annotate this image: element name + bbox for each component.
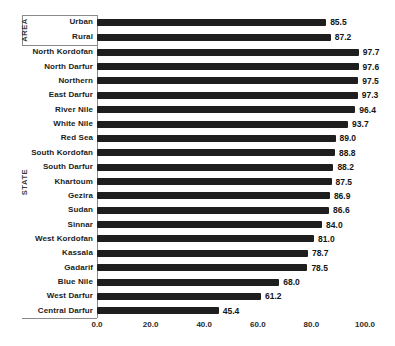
axis-top-separator-line bbox=[22, 15, 97, 16]
value-label: 86.9 bbox=[334, 191, 351, 201]
category-label: White Nile bbox=[20, 119, 93, 129]
bar-chart: AREAUrban85.5Rural87.2STATENorth Kordofa… bbox=[0, 0, 395, 346]
category-label: Rural bbox=[20, 32, 93, 42]
value-label: 84.0 bbox=[326, 220, 343, 230]
bar bbox=[97, 49, 359, 56]
category-label: Kassala bbox=[20, 248, 93, 258]
bar bbox=[97, 63, 359, 70]
bar bbox=[97, 135, 336, 142]
value-label: 88.8 bbox=[339, 148, 356, 158]
category-label: Gadarif bbox=[20, 263, 93, 273]
bar bbox=[97, 235, 314, 242]
bar bbox=[97, 106, 355, 113]
axis-group-separator-line bbox=[22, 45, 97, 46]
bar bbox=[97, 207, 329, 214]
value-label: 81.0 bbox=[318, 234, 335, 244]
axis-bottom-separator-line bbox=[22, 318, 97, 319]
bar bbox=[97, 121, 348, 128]
bar bbox=[97, 164, 333, 171]
value-label: 97.6 bbox=[363, 62, 380, 72]
category-label: Urban bbox=[20, 17, 93, 27]
x-tick-label: 80.0 bbox=[304, 320, 320, 329]
value-label: 78.7 bbox=[312, 248, 329, 258]
category-label: North Kordofan bbox=[20, 47, 93, 57]
bar bbox=[97, 264, 307, 271]
bar bbox=[97, 221, 322, 228]
category-label: Northern bbox=[20, 76, 93, 86]
x-tick-label: 100.0 bbox=[355, 320, 375, 329]
category-label: Red Sea bbox=[20, 133, 93, 143]
category-label: South Kordofan bbox=[20, 148, 93, 158]
value-label: 45.4 bbox=[223, 306, 240, 316]
bar bbox=[97, 178, 332, 185]
category-label: South Darfur bbox=[20, 162, 93, 172]
value-label: 87.2 bbox=[335, 32, 352, 42]
bar bbox=[97, 34, 331, 41]
bar bbox=[97, 293, 261, 300]
x-tick-label: 20.0 bbox=[143, 320, 159, 329]
category-label: Blue Nile bbox=[20, 277, 93, 287]
bar bbox=[97, 307, 219, 314]
value-label: 93.7 bbox=[352, 119, 369, 129]
category-label: North Darfur bbox=[20, 62, 93, 72]
value-label: 97.3 bbox=[362, 90, 379, 100]
value-label: 97.7 bbox=[363, 47, 380, 57]
bar bbox=[97, 92, 358, 99]
value-label: 96.4 bbox=[359, 105, 376, 115]
category-label: East Darfur bbox=[20, 90, 93, 100]
value-label: 88.2 bbox=[337, 162, 354, 172]
bar bbox=[97, 19, 326, 26]
value-label: 89.0 bbox=[340, 133, 357, 143]
value-label: 85.5 bbox=[330, 17, 347, 27]
category-label: West Darfur bbox=[20, 291, 93, 301]
category-label: Sudan bbox=[20, 205, 93, 215]
x-tick-label: 60.0 bbox=[250, 320, 266, 329]
value-label: 68.0 bbox=[283, 277, 300, 287]
category-label: Gezira bbox=[20, 191, 93, 201]
value-label: 61.2 bbox=[265, 291, 282, 301]
category-label: West Kordofan bbox=[20, 234, 93, 244]
x-tick-label: 40.0 bbox=[196, 320, 212, 329]
category-label: Khartoum bbox=[20, 177, 93, 187]
value-label: 78.5 bbox=[311, 263, 328, 273]
category-label: Sinnar bbox=[20, 220, 93, 230]
bar bbox=[97, 250, 308, 257]
x-tick-label: 0.0 bbox=[91, 320, 102, 329]
category-label: River Nile bbox=[20, 105, 93, 115]
bar bbox=[97, 279, 279, 286]
bar bbox=[97, 192, 330, 199]
value-label: 97.5 bbox=[362, 76, 379, 86]
value-label: 86.6 bbox=[333, 205, 350, 215]
value-label: 87.5 bbox=[336, 177, 353, 187]
category-label: Central Darfur bbox=[20, 306, 93, 316]
bar bbox=[97, 149, 335, 156]
bar bbox=[97, 77, 358, 84]
